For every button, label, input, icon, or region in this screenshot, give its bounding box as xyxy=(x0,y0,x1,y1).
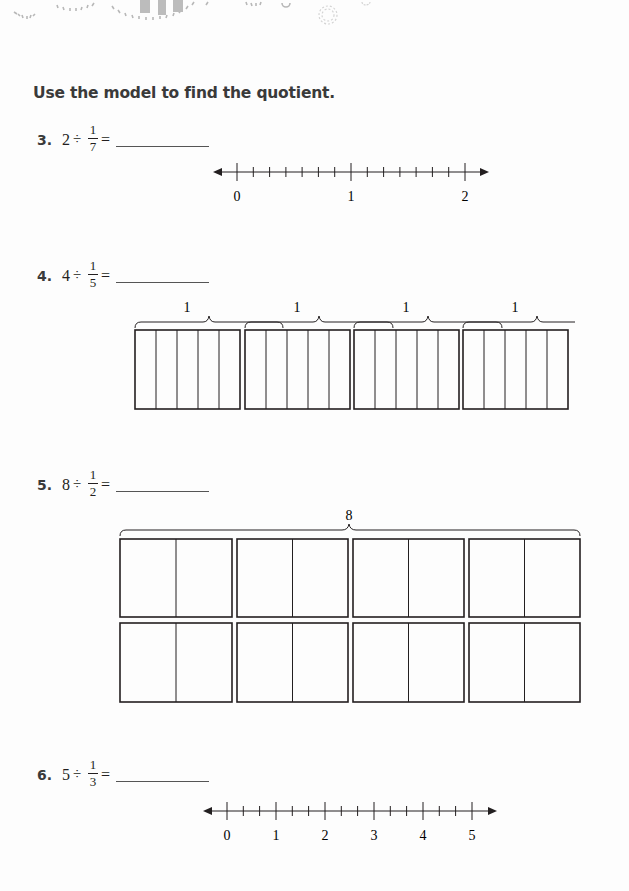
brace-label: 1 xyxy=(403,300,410,315)
number-line-sevenths: 0 1 2 xyxy=(205,158,505,208)
problem-number: 3. xyxy=(37,132,52,148)
equals-sign: = xyxy=(101,131,110,149)
tick-label-2: 2 xyxy=(322,828,329,843)
brace-label: 1 xyxy=(512,300,519,315)
tick-label-1: 1 xyxy=(348,189,355,204)
brace-label: 8 xyxy=(346,508,353,523)
numerator: 1 xyxy=(90,122,97,137)
denominator: 3 xyxy=(90,774,97,789)
dividend: 2 xyxy=(62,131,70,149)
fraction-grid-halves: 8 xyxy=(115,504,585,706)
tick-label-0: 0 xyxy=(224,828,231,843)
dividend: 5 xyxy=(62,766,70,784)
instruction-heading: Use the model to find the quotient. xyxy=(33,84,335,102)
divide-sign: ÷ xyxy=(73,476,81,493)
denominator: 7 xyxy=(90,139,97,154)
divide-sign: ÷ xyxy=(73,766,81,783)
brace-label: 1 xyxy=(184,300,191,315)
problem-number: 6. xyxy=(37,767,52,783)
dividend: 4 xyxy=(62,267,70,285)
problem-number: 4. xyxy=(37,268,52,284)
answer-blank[interactable] xyxy=(116,146,209,147)
equals-sign: = xyxy=(101,267,110,285)
fraction: 1 3 xyxy=(88,758,98,789)
dividend: 8 xyxy=(62,476,70,494)
tick-label-2: 2 xyxy=(462,189,469,204)
sunburst-decoration xyxy=(0,0,629,32)
tick-label-3: 3 xyxy=(371,828,378,843)
answer-blank[interactable] xyxy=(116,282,209,283)
numerator: 1 xyxy=(90,258,97,273)
denominator: 2 xyxy=(90,484,97,499)
number-line-thirds: 0 1 2 3 4 5 xyxy=(195,798,505,848)
divide-sign: ÷ xyxy=(73,267,81,284)
equals-sign: = xyxy=(101,766,110,784)
tick-label-1: 1 xyxy=(273,828,280,843)
fraction: 1 2 xyxy=(88,468,98,499)
fraction: 1 7 xyxy=(88,123,98,154)
answer-blank[interactable] xyxy=(116,491,209,492)
equals-sign: = xyxy=(101,476,110,494)
numerator: 1 xyxy=(90,467,97,482)
brace-label: 1 xyxy=(294,300,301,315)
fraction-strips-fifths: 1 1 1 1 xyxy=(130,296,575,414)
problem-number: 5. xyxy=(37,477,52,493)
tick-label-4: 4 xyxy=(420,828,427,843)
tick-label-0: 0 xyxy=(234,189,241,204)
divide-sign: ÷ xyxy=(73,131,81,148)
numerator: 1 xyxy=(90,757,97,772)
answer-blank[interactable] xyxy=(116,781,209,782)
tick-label-5: 5 xyxy=(469,828,476,843)
fraction: 1 5 xyxy=(88,259,98,290)
denominator: 5 xyxy=(90,275,97,290)
